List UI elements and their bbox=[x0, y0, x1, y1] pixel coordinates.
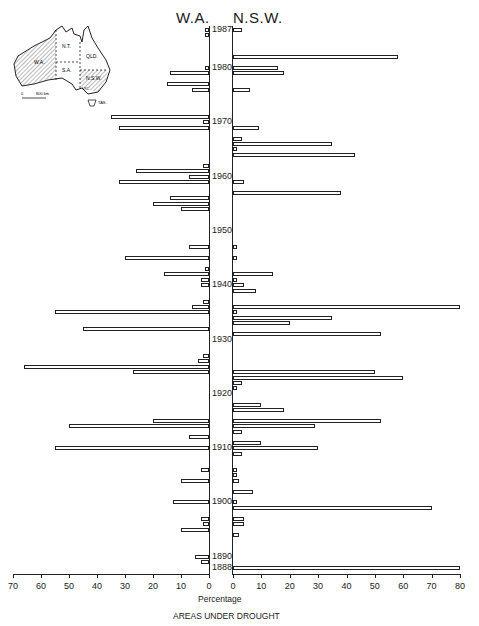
nsw-bar bbox=[233, 332, 381, 336]
x-tick-label: 0 bbox=[199, 581, 219, 591]
x-tick-label: 40 bbox=[87, 581, 107, 591]
center-left-line bbox=[209, 26, 210, 574]
x-tick bbox=[261, 574, 262, 578]
wa-bar bbox=[205, 28, 209, 32]
x-tick-label: 70 bbox=[422, 581, 442, 591]
nsw-bar bbox=[233, 403, 261, 407]
wa-bar bbox=[136, 169, 209, 173]
x-tick-label: 30 bbox=[115, 581, 135, 591]
nsw-header: N.S.W. bbox=[233, 9, 283, 26]
x-tick-label: 10 bbox=[171, 581, 191, 591]
wa-bar bbox=[111, 115, 209, 119]
year-label: 1960 bbox=[212, 172, 232, 181]
x-tick bbox=[290, 574, 291, 578]
x-tick bbox=[13, 574, 14, 578]
nsw-bar bbox=[233, 386, 237, 390]
wa-bar bbox=[195, 555, 209, 559]
svg-text:S.A.: S.A. bbox=[62, 67, 71, 73]
nsw-bar bbox=[233, 147, 237, 151]
svg-text:0: 0 bbox=[21, 91, 24, 96]
nsw-bar bbox=[233, 424, 315, 428]
nsw-bar bbox=[233, 278, 237, 282]
nsw-bar bbox=[233, 316, 332, 320]
x-tick bbox=[432, 574, 433, 578]
nsw-bar bbox=[233, 180, 244, 184]
nsw-bar bbox=[233, 500, 237, 504]
nsw-bar bbox=[233, 191, 341, 195]
nsw-bar bbox=[233, 468, 237, 472]
wa-bar bbox=[170, 71, 209, 75]
wa-bar bbox=[201, 468, 209, 472]
year-label: 1970 bbox=[212, 117, 232, 126]
nsw-bar bbox=[233, 71, 284, 75]
wa-bar bbox=[170, 196, 209, 200]
year-label: 1910 bbox=[212, 443, 232, 452]
year-label: 1940 bbox=[212, 280, 232, 289]
wa-bar bbox=[192, 305, 209, 309]
x-tick bbox=[153, 574, 154, 578]
x-tick-label: 20 bbox=[143, 581, 163, 591]
nsw-bar bbox=[233, 506, 432, 510]
x-tick bbox=[318, 574, 319, 578]
wa-bar bbox=[203, 300, 209, 304]
nsw-bar bbox=[233, 310, 237, 314]
wa-bar bbox=[189, 175, 209, 179]
svg-text:QLD.: QLD. bbox=[86, 53, 98, 59]
nsw-bar bbox=[233, 289, 256, 293]
wa-bar bbox=[203, 164, 209, 168]
x-tick bbox=[41, 574, 42, 578]
year-label: 1890 bbox=[212, 552, 232, 561]
nsw-bar bbox=[233, 66, 278, 70]
wa-bar bbox=[201, 517, 209, 521]
wa-bar bbox=[203, 522, 209, 526]
x-tick bbox=[233, 574, 234, 578]
wa-bar bbox=[133, 370, 209, 374]
nsw-bar bbox=[233, 126, 259, 130]
wa-bar bbox=[173, 500, 209, 504]
nsw-bar bbox=[233, 430, 242, 434]
year-label: 1888 bbox=[212, 563, 232, 572]
wa-bar bbox=[189, 435, 209, 439]
wa-bar bbox=[24, 365, 209, 369]
svg-text:W.A.: W.A. bbox=[34, 59, 45, 65]
wa-bar bbox=[164, 272, 209, 276]
wa-bar bbox=[203, 354, 209, 358]
nsw-bar bbox=[233, 28, 242, 32]
wa-bar bbox=[153, 202, 209, 206]
nsw-bar bbox=[233, 408, 284, 412]
nsw-bar bbox=[233, 452, 242, 456]
nsw-bar bbox=[233, 256, 237, 260]
drought-chart: W.A. N.T. QLD. S.A. N.S.W. VIC. TAS. 0 8… bbox=[0, 0, 479, 626]
wa-bar bbox=[198, 359, 209, 363]
x-tick-label: 20 bbox=[280, 581, 300, 591]
nsw-bar bbox=[233, 446, 318, 450]
nsw-bar bbox=[233, 283, 244, 287]
svg-text:800 km: 800 km bbox=[36, 91, 50, 96]
x-tick-label: 50 bbox=[59, 581, 79, 591]
nsw-bar bbox=[233, 370, 375, 374]
nsw-bar bbox=[233, 88, 250, 92]
x-tick-label: 0 bbox=[223, 581, 243, 591]
x-tick bbox=[181, 574, 182, 578]
x-tick-label: 30 bbox=[308, 581, 328, 591]
nsw-bar bbox=[233, 381, 242, 385]
wa-bar bbox=[205, 33, 209, 37]
nsw-bar bbox=[233, 55, 398, 59]
nsw-bar bbox=[233, 245, 237, 249]
svg-text:VIC.: VIC. bbox=[82, 86, 90, 91]
x-tick bbox=[69, 574, 70, 578]
x-axis-label: Percentage bbox=[198, 594, 241, 604]
x-tick bbox=[403, 574, 404, 578]
nsw-bar bbox=[233, 376, 403, 380]
wa-bar bbox=[201, 560, 209, 564]
svg-text:TAS.: TAS. bbox=[98, 100, 107, 105]
x-tick bbox=[460, 574, 461, 578]
nsw-bar bbox=[233, 441, 261, 445]
wa-bar bbox=[55, 310, 209, 314]
x-tick bbox=[375, 574, 376, 578]
year-label: 1950 bbox=[212, 226, 232, 235]
wa-bar bbox=[69, 424, 209, 428]
nsw-bar bbox=[233, 153, 355, 157]
wa-bar bbox=[181, 207, 209, 211]
australia-map-inset: W.A. N.T. QLD. S.A. N.S.W. VIC. TAS. 0 8… bbox=[2, 8, 152, 127]
